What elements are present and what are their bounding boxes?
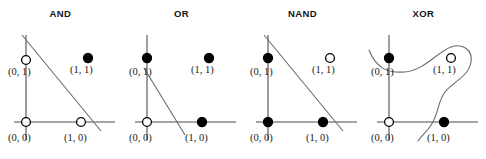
panel-xor: XOR (0, 1) (1, 1) (0, 0) (1, 0) bbox=[363, 0, 484, 159]
data-point-0-0 bbox=[263, 117, 272, 126]
point-label-1-0: (1, 0) bbox=[306, 132, 329, 143]
point-label-0-1: (0, 1) bbox=[250, 66, 273, 77]
point-label-0-1: (0, 1) bbox=[371, 66, 394, 77]
point-label-1-0: (1, 0) bbox=[64, 132, 87, 143]
data-point-0-1 bbox=[263, 53, 272, 62]
point-label-0-0: (0, 0) bbox=[129, 132, 152, 143]
data-point-0-1 bbox=[22, 56, 31, 65]
data-point-1-1 bbox=[447, 54, 456, 63]
point-label-1-0: (1, 0) bbox=[185, 132, 208, 143]
data-point-1-0 bbox=[439, 117, 448, 126]
data-point-1-0 bbox=[77, 118, 86, 127]
point-label-1-1: (1, 1) bbox=[70, 64, 93, 75]
panel-or: OR (0, 1) (1, 1) (0, 0) (1, 0) bbox=[121, 0, 242, 159]
decision-boundary-line bbox=[22, 35, 101, 131]
data-point-1-0 bbox=[197, 117, 206, 126]
data-point-0-0 bbox=[143, 118, 152, 127]
panel-nand: NAND (0, 1) (1, 1) (0, 0) (1, 0) bbox=[242, 0, 363, 159]
point-label-0-1: (0, 1) bbox=[8, 66, 31, 77]
logic-gate-separability-figure: AND (0, 1) (1, 1) (0, 0) (1, 0) OR (0, 1… bbox=[0, 0, 486, 159]
data-point-1-1 bbox=[83, 53, 92, 62]
decision-boundary-line bbox=[264, 35, 343, 131]
data-point-0-0 bbox=[22, 118, 31, 127]
point-label-1-1: (1, 1) bbox=[191, 64, 214, 75]
data-point-1-0 bbox=[318, 117, 327, 126]
data-point-0-0 bbox=[385, 118, 394, 127]
point-label-1-1: (1, 1) bbox=[312, 64, 335, 75]
point-label-0-0: (0, 0) bbox=[371, 132, 394, 143]
panel-and: AND (0, 1) (1, 1) (0, 0) (1, 0) bbox=[0, 0, 121, 159]
point-label-1-0: (1, 0) bbox=[427, 132, 450, 143]
point-label-0-0: (0, 0) bbox=[250, 132, 273, 143]
data-point-1-1 bbox=[326, 54, 335, 63]
data-point-0-1 bbox=[384, 53, 393, 62]
point-label-0-0: (0, 0) bbox=[8, 132, 31, 143]
data-point-1-1 bbox=[204, 53, 213, 62]
point-label-1-1: (1, 1) bbox=[433, 64, 456, 75]
point-label-0-1: (0, 1) bbox=[129, 66, 152, 77]
data-point-0-1 bbox=[142, 53, 151, 62]
